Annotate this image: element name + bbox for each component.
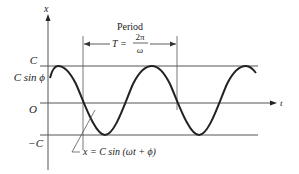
equation-label: x = C sin (ωt + ϕ) [82,146,157,158]
x-axis-label: x [43,3,49,14]
period-T-label: T = [112,38,127,49]
origin-label: O [29,103,37,115]
t-axis-arrow-icon [270,101,277,106]
t-axis-label: t [280,98,283,108]
period-numerator: 2π [135,32,145,42]
arrow-right-icon [170,42,176,47]
phase-level-label: C sin ϕ [14,71,46,83]
arrow-left-icon [84,42,90,47]
lower-level-label: −C [28,137,43,149]
sinusoid-diagram: x t C C sin ϕ O −C Period T = 2π ω x = C… [0,0,299,174]
x-axis-arrow-icon [46,14,51,21]
upper-level-label: C [30,54,38,66]
sine-curve [50,66,256,135]
period-title: Period [117,21,143,32]
period-denominator: ω [137,45,143,55]
